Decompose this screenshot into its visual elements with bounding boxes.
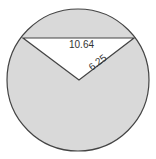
circle-diagram: 10.64 6.25 bbox=[0, 0, 156, 159]
chord-length-label: 10.64 bbox=[69, 39, 94, 50]
diagram-canvas: 10.64 6.25 bbox=[0, 0, 156, 159]
